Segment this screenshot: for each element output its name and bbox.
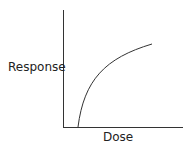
- x-axis-label: Dose: [103, 130, 133, 144]
- response-curve: [78, 44, 152, 127]
- y-axis-label: Response: [8, 60, 66, 74]
